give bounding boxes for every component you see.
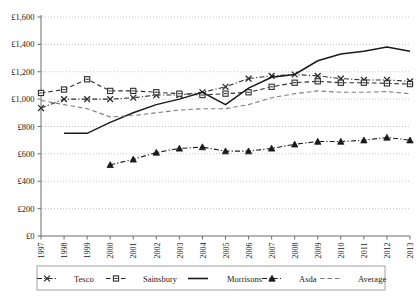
x-tick-label: 2013 xyxy=(406,243,415,259)
legend-label: Sainsbury xyxy=(143,274,178,284)
x-tick-label: 2012 xyxy=(383,243,392,259)
x-tick-label: 2006 xyxy=(245,243,254,259)
x-tick-label: 1998 xyxy=(60,243,69,259)
x-tick-label: 2009 xyxy=(314,243,323,259)
y-tick-label: £1,400 xyxy=(11,39,34,49)
legend: TescoSainsburyMorrisonsAsdaAverage xyxy=(37,266,386,290)
x-tick-label: 2002 xyxy=(153,243,162,259)
x-tick-label: 2004 xyxy=(199,243,208,259)
series-morrisons xyxy=(64,47,410,133)
x-tick-label: 2001 xyxy=(129,243,138,259)
axes: £0£200£400£600£800£1,000£1,200£1,400£1,6… xyxy=(11,12,415,259)
legend-item-average[interactable]: Average xyxy=(320,274,386,284)
legend-label: Tesco xyxy=(74,274,94,284)
marker-triangle xyxy=(291,141,297,147)
x-tick-label: 2003 xyxy=(176,243,185,259)
y-tick-label: £800 xyxy=(18,122,35,132)
legend-label: Average xyxy=(358,274,386,284)
y-tick-label: £200 xyxy=(18,204,35,214)
y-tick-label: £400 xyxy=(18,176,35,186)
x-tick-label: 2008 xyxy=(291,243,300,259)
marker-triangle xyxy=(176,145,182,151)
series-group xyxy=(38,47,413,167)
legend-label: Asda xyxy=(299,274,317,284)
y-tick-label: £600 xyxy=(18,149,35,159)
x-tick-label: 2011 xyxy=(360,243,369,259)
series-line xyxy=(64,47,410,133)
y-tick-label: £1,000 xyxy=(11,94,34,104)
x-tick-label: 2010 xyxy=(337,243,346,259)
x-tick-label: 1999 xyxy=(83,243,92,259)
chart-container: £0£200£400£600£800£1,000£1,200£1,400£1,6… xyxy=(0,0,417,299)
x-tick-label: 1997 xyxy=(37,243,46,259)
legend-item-morrisons[interactable]: Morrisons xyxy=(188,274,262,284)
y-tick-label: £1,200 xyxy=(11,67,34,77)
x-tick-label: 2007 xyxy=(268,243,277,259)
legend-item-tesco[interactable]: Tesco xyxy=(37,274,94,284)
legend-item-asda[interactable]: Asda xyxy=(262,274,317,284)
x-tick-label: 2000 xyxy=(106,243,115,259)
y-tick-label: £1,600 xyxy=(11,12,34,22)
legend-label: Morrisons xyxy=(227,274,262,284)
line-chart: £0£200£400£600£800£1,000£1,200£1,400£1,6… xyxy=(0,0,417,299)
x-tick-label: 2005 xyxy=(222,243,231,259)
gridlines xyxy=(42,17,410,209)
y-tick-label: £0 xyxy=(26,231,35,241)
legend-item-sainsbury[interactable]: Sainsbury xyxy=(106,274,178,284)
series-asda xyxy=(107,134,413,167)
